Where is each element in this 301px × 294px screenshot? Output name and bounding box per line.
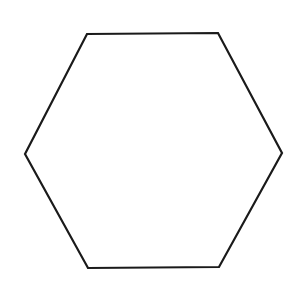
canvas-background bbox=[0, 0, 301, 294]
hexagon-svg bbox=[0, 0, 301, 294]
drawing-canvas bbox=[0, 0, 301, 294]
